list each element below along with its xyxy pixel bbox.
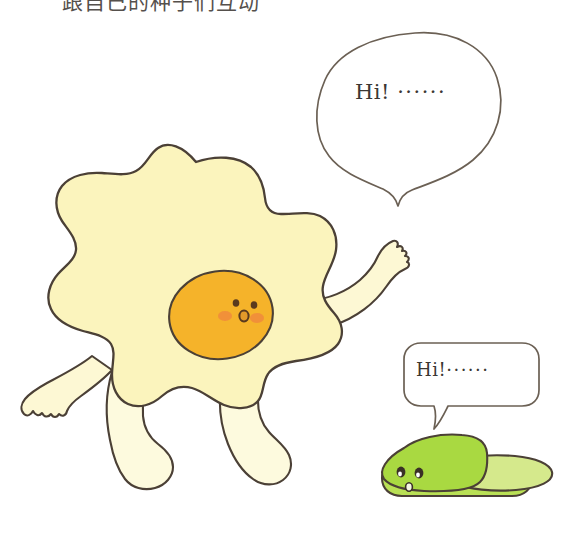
small-speech-bubble bbox=[404, 343, 539, 429]
caption-text: 跟自己的种子们互动 bbox=[62, 0, 260, 13]
big-speech-bubble bbox=[317, 33, 501, 206]
small-speech-bubble-body bbox=[404, 343, 539, 429]
egg-eye-left bbox=[233, 299, 240, 307]
big-bubble-text: Hi! ······ bbox=[355, 80, 446, 104]
top-caption-strip: 跟自己的种子们互动 bbox=[0, 0, 581, 13]
egg-blush-right bbox=[250, 313, 264, 323]
egg-left-arm bbox=[21, 356, 112, 417]
cucumber-body bbox=[382, 435, 487, 492]
egg-mouth bbox=[239, 311, 248, 322]
small-bubble-text: Hi!······ bbox=[416, 359, 490, 380]
egg-eye-right bbox=[251, 301, 258, 309]
fried-egg-character bbox=[21, 145, 409, 489]
cucumber-mouth bbox=[406, 483, 413, 491]
big-bubble-dots: ······ bbox=[397, 80, 446, 104]
small-bubble-dots: ······ bbox=[446, 359, 489, 380]
illustration-canvas bbox=[0, 0, 581, 534]
small-bubble-greeting: Hi! bbox=[416, 359, 446, 380]
egg-blush-left bbox=[218, 311, 232, 321]
big-bubble-greeting: Hi! bbox=[355, 80, 390, 104]
cucumber-eye-left-highlight bbox=[398, 472, 402, 477]
big-speech-bubble-body bbox=[317, 33, 501, 206]
cucumber-eye-right-highlight bbox=[416, 473, 420, 478]
cucumber-character bbox=[382, 435, 552, 496]
